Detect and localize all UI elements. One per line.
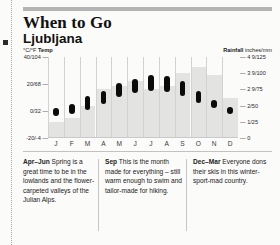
month-label: M: [80, 140, 96, 147]
month-label: D: [222, 140, 238, 147]
chart-column: [48, 57, 64, 138]
season-blurb: Dec–Mar Everyone dons their skis in this…: [193, 157, 267, 186]
temperature-range-bar: [227, 107, 233, 114]
rainfall-tick-label: — 2 9/75: [240, 86, 263, 92]
month-label: J: [48, 140, 64, 147]
temperature-range-bar: [180, 81, 186, 96]
temperature-range-bar: [132, 79, 138, 94]
month-label: F: [64, 140, 80, 147]
rainfall-tick-label: — 0: [240, 135, 250, 141]
chart-column: [111, 57, 127, 138]
chart-column: [96, 57, 112, 138]
temperature-range-bar: [148, 75, 154, 91]
rainfall-tick-label: — 1/25: [240, 119, 258, 125]
margin-rule: [11, 0, 13, 245]
rainfall-axis-name: Rainfall: [223, 47, 243, 53]
chart-plot-area: [48, 57, 238, 138]
month-label: A: [159, 140, 175, 147]
temp-tick-label: -20/-4 —: [26, 135, 48, 141]
season-blurb: Sep This is the month made for everythin…: [105, 157, 183, 195]
temp-axis-unit: °C/°F: [23, 47, 37, 53]
page-title: When to Go: [23, 13, 112, 33]
rainfall-tick-label: — 2/50: [240, 103, 258, 109]
season-blurb: Apr–Jun Spring is a great time to be in …: [23, 157, 97, 205]
month-label: A: [96, 140, 112, 147]
rainfall-bar: [144, 89, 159, 138]
month-label: O: [191, 140, 207, 147]
chart-column: [175, 57, 191, 138]
temp-tick-label: 40/104 —: [24, 54, 48, 60]
season-blurb-heading: Sep: [105, 158, 117, 165]
season-blurb-heading: Apr–Jun: [23, 158, 50, 165]
rainfall-tick-label: — 4 9/125: [240, 54, 266, 60]
climate-chart: [48, 57, 238, 138]
chart-column: [159, 57, 175, 138]
chart-column: [64, 57, 80, 138]
month-axis: JFMAMJJASOND: [48, 140, 238, 150]
chart-baseline: [48, 137, 238, 138]
chart-column: [143, 57, 159, 138]
month-label: J: [127, 140, 143, 147]
month-label: J: [143, 140, 159, 147]
month-label: S: [175, 140, 191, 147]
header-top-rule: [23, 7, 272, 11]
temp-axis-name: Temp: [38, 47, 53, 53]
blurb-separator: [186, 159, 187, 231]
temp-axis-caption: °C/°F Temp: [23, 47, 53, 53]
rainfall-axis-caption: Rainfall inches/mm: [223, 47, 272, 53]
rainfall-tick-label: — 3 9/100: [240, 70, 266, 76]
chart-column: [206, 57, 222, 138]
margin-tick-marker: [3, 40, 8, 45]
chart-column: [191, 57, 207, 138]
right-axis-ticks: — 4 9/125— 3 9/100— 2 9/75— 2/50— 1/25— …: [240, 57, 280, 142]
temperature-range-bar: [101, 91, 107, 105]
month-label: N: [206, 140, 222, 147]
temperature-range-bar: [164, 76, 170, 92]
temperature-range-bar: [85, 96, 91, 110]
chart-bottom-rule: [23, 151, 272, 152]
season-blurb-heading: Dec–Mar: [193, 158, 221, 165]
blurb-separator: [98, 159, 99, 231]
left-axis-ticks: 40/104 —20/68 —0/32 —-20/-4 —: [14, 57, 48, 142]
temperature-range-bar: [116, 83, 122, 98]
temp-tick-label: 20/68 —: [27, 81, 48, 87]
temperature-range-bar: [69, 104, 75, 113]
chart-column: [80, 57, 96, 138]
season-blurb-text: This is the month made for everything – …: [105, 158, 182, 194]
rainfall-bar: [49, 122, 64, 138]
rainfall-bar: [223, 98, 238, 138]
rainfall-bar: [81, 106, 96, 138]
temperature-range-bar: [196, 91, 202, 103]
rainfall-bar: [160, 86, 175, 138]
when-to-go-page: When to Go Ljubljana °C/°F Temp Rainfall…: [0, 0, 280, 245]
chart-column: [222, 57, 238, 138]
rainfall-axis-unit: inches/mm: [245, 47, 272, 53]
season-blurbs: Apr–Jun Spring is a great time to be in …: [23, 157, 273, 237]
temp-tick-label: 0/32 —: [30, 108, 48, 114]
temperature-range-bar: [53, 108, 59, 116]
chart-column: [127, 57, 143, 138]
month-label: M: [111, 140, 127, 147]
rainfall-bar: [65, 118, 80, 138]
page-subtitle-city: Ljubljana: [23, 31, 82, 46]
